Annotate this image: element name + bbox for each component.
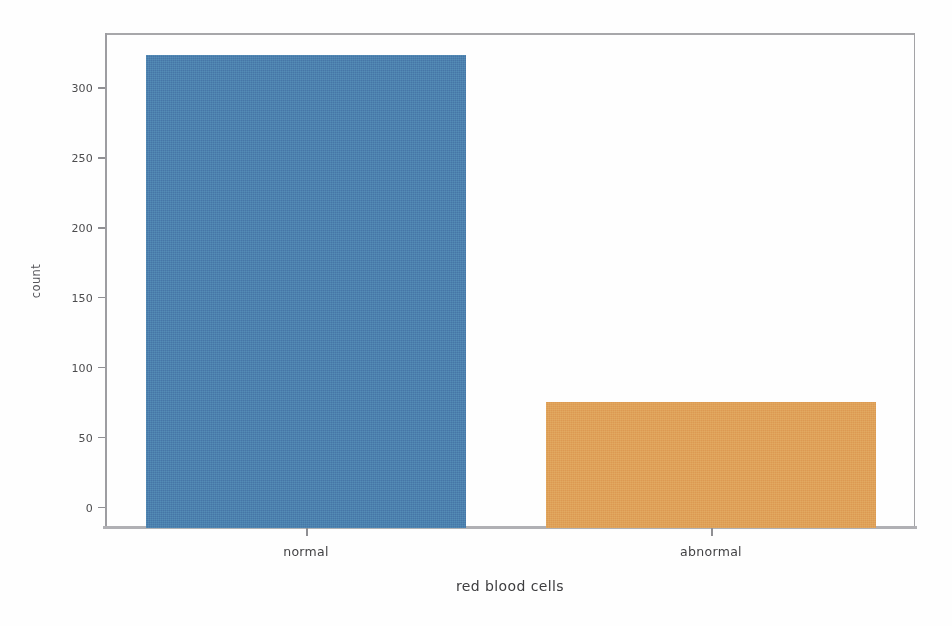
y-tick-label-0: 0 (86, 501, 93, 514)
y-tick-300: 300 (98, 87, 105, 89)
y-tick-150: 150 (98, 297, 105, 299)
y-tick-0: 0 (98, 507, 105, 509)
y-tick-label-100: 100 (71, 361, 93, 374)
y-tick-label-300: 300 (71, 82, 93, 95)
plot-area: 300 250 200 150 100 50 0 normal abnormal (105, 33, 915, 528)
y-axis-title: count (25, 33, 47, 528)
x-tick-label-normal: normal (283, 544, 329, 559)
x-tick-abnormal: abnormal (711, 528, 713, 536)
x-tick-normal: normal (306, 528, 308, 536)
x-tick-label-abnormal: abnormal (680, 544, 742, 559)
y-tick-label-50: 50 (79, 431, 93, 444)
y-tick-50: 50 (98, 437, 105, 439)
y-tick-250: 250 (98, 157, 105, 159)
y-tick-label-150: 150 (71, 291, 93, 304)
y-tick-label-250: 250 (71, 152, 93, 165)
y-tick-100: 100 (98, 367, 105, 369)
y-tick-200: 200 (98, 227, 105, 229)
axis-spine-right (914, 33, 916, 529)
bar-abnormal[interactable] (546, 402, 876, 528)
axis-spine-top (105, 33, 915, 35)
chart-figure: count 300 250 200 150 100 50 0 (0, 0, 952, 626)
y-tick-label-200: 200 (71, 222, 93, 235)
y-axis-title-text: count (29, 263, 43, 297)
axis-spine-left (105, 33, 107, 529)
x-axis-title: red blood cells (105, 578, 915, 594)
bar-normal[interactable] (146, 55, 466, 528)
